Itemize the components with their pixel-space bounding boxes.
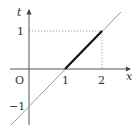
x-axis-label: x <box>126 70 133 83</box>
y-axis-label: t <box>17 6 22 19</box>
x-tick-2: 2 <box>98 74 105 87</box>
origin-label: O <box>15 74 24 87</box>
thick-segment <box>65 31 102 69</box>
y-tick-1: 1 <box>17 25 24 38</box>
y-tick-minus-1: −1 <box>9 100 25 113</box>
graph-canvas: t x O 1 2 1 −1 <box>0 0 140 132</box>
x-tick-1: 1 <box>62 74 69 87</box>
